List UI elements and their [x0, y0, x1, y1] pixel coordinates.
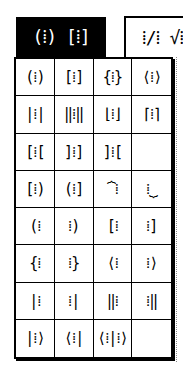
tab-fractions-radicals[interactable]: ⁞/⁞ √⁞: [124, 16, 183, 57]
fences-tab-label: (⁞) [⁞]: [32, 26, 89, 48]
template-underbrace[interactable]: ⁞⏟: [132, 171, 171, 208]
template-curly-braces[interactable]: {⁞}: [94, 59, 133, 96]
template-double-bars[interactable]: ‖⁞‖: [55, 96, 94, 133]
template-left-bar-only[interactable]: |⁞: [16, 283, 55, 320]
template-bracket-paren[interactable]: [⁞): [16, 171, 55, 208]
template-ket[interactable]: |⁞⟩: [16, 320, 55, 357]
template-right-brace-only[interactable]: ⁞}: [55, 245, 94, 282]
template-empty: [132, 134, 171, 171]
template-bra-ket[interactable]: ⟨⁞|⁞⟩: [94, 320, 133, 357]
template-right-angle-only[interactable]: ⁞⟩: [132, 245, 171, 282]
tab-fences[interactable]: (⁞) [⁞]: [16, 17, 106, 57]
fence-template-palette: (⁞)[⁞]{⁞}⟨⁞⟩|⁞|‖⁞‖⌊⁞⌋⌈⁞⌉[⁞[]⁞]]⁞[[⁞)(⁞]⏞…: [14, 57, 173, 359]
template-left-double-bar-only[interactable]: ‖⁞: [94, 283, 133, 320]
template-left-bracket-only[interactable]: [⁞: [94, 208, 133, 245]
template-angle-brackets[interactable]: ⟨⁞⟩: [132, 59, 171, 96]
template-left-bracket-open[interactable]: [⁞[: [16, 134, 55, 171]
template-overbrace[interactable]: ⏞⁞: [94, 171, 133, 208]
template-square-brackets[interactable]: [⁞]: [55, 59, 94, 96]
template-left-angle-only[interactable]: ⟨⁞: [94, 245, 133, 282]
template-floor[interactable]: ⌊⁞⌋: [94, 96, 133, 133]
template-left-brace-only[interactable]: {⁞: [16, 245, 55, 282]
template-parentheses[interactable]: (⁞): [16, 59, 55, 96]
template-right-bracket-open[interactable]: ]⁞]: [55, 134, 94, 171]
template-right-paren-only[interactable]: ⁞): [55, 208, 94, 245]
template-right-bar-only[interactable]: ⁞|: [55, 283, 94, 320]
palette-edge: [176, 57, 179, 362]
template-empty: [132, 320, 171, 357]
template-paren-bracket[interactable]: (⁞]: [55, 171, 94, 208]
template-reversed-brackets[interactable]: ]⁞[: [94, 134, 133, 171]
palette-tabbar: (⁞) [⁞] ⁞/⁞ √⁞: [14, 14, 183, 58]
template-bra[interactable]: ⟨⁞|: [55, 320, 94, 357]
template-right-bracket-only[interactable]: ⁞]: [132, 208, 171, 245]
template-absolute-value[interactable]: |⁞|: [16, 96, 55, 133]
template-left-paren-only[interactable]: (⁞: [16, 208, 55, 245]
template-right-double-bar-only[interactable]: ⁞‖: [132, 283, 171, 320]
fractions-tab-label: ⁞/⁞ √⁞: [142, 27, 183, 49]
template-ceiling[interactable]: ⌈⁞⌉: [132, 96, 171, 133]
